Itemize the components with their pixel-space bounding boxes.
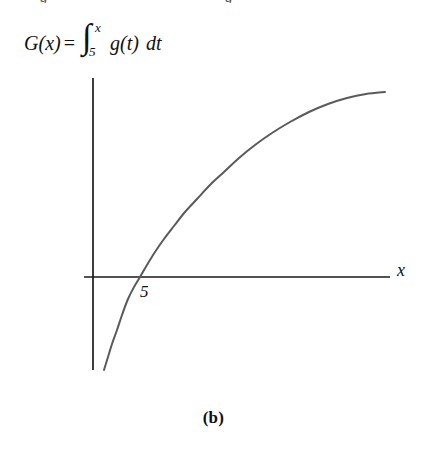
x-intercept-label-5: 5 [140, 283, 149, 300]
plot-svg [0, 0, 427, 458]
x-axis-label: x [397, 261, 405, 279]
figure-container: g g G(x)=∫x5g(t)dt 5 x (b) [0, 0, 427, 458]
figure-caption: (b) [0, 408, 427, 428]
curve-G-of-x [104, 92, 385, 370]
